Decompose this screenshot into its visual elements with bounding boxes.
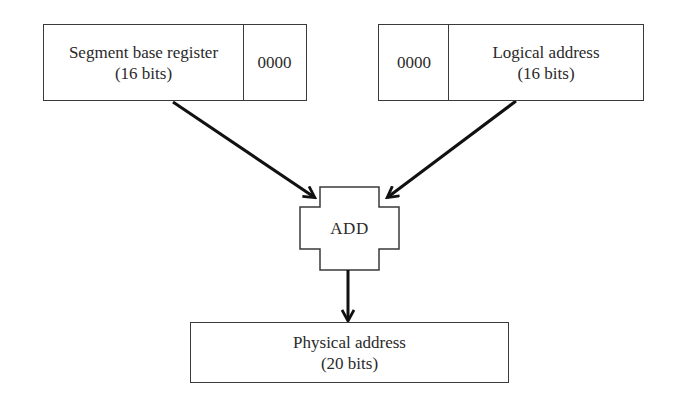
segment-register-box: Segment base register (16 bits) 0000	[43, 24, 307, 101]
physical-address-box: Physical address (20 bits)	[190, 322, 509, 383]
logical-address-label: Logical address	[492, 42, 599, 63]
arrow-logical-to-add	[388, 101, 516, 197]
logical-padding-field: 0000	[379, 25, 449, 100]
segment-register-label: Segment base register	[69, 42, 218, 63]
physical-address-label: Physical address	[293, 332, 406, 353]
arrow-segment-to-add	[173, 102, 314, 197]
segment-register-field: Segment base register (16 bits)	[44, 25, 243, 100]
segment-register-bits: (16 bits)	[115, 63, 172, 84]
logical-address-box: 0000 Logical address (16 bits)	[378, 24, 644, 101]
logical-address-bits: (16 bits)	[517, 63, 574, 84]
segmentation-diagram: Segment base register (16 bits) 0000 000…	[0, 0, 673, 400]
segment-padding-bits: 0000	[258, 52, 292, 73]
logical-padding-bits: 0000	[397, 52, 431, 73]
adder-label: ADD	[300, 187, 399, 270]
physical-address-bits: (20 bits)	[321, 353, 378, 374]
logical-address-field: Logical address (16 bits)	[449, 25, 643, 100]
segment-padding-field: 0000	[243, 25, 306, 100]
